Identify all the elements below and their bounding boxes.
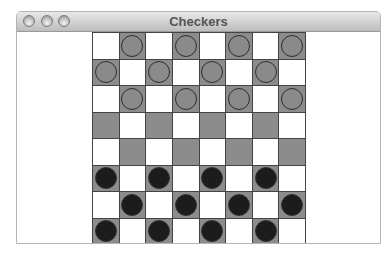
dark-checker-piece[interactable] [121,194,143,216]
board-square[interactable] [120,33,147,60]
light-checker-piece[interactable] [95,61,117,83]
board-square[interactable] [226,139,253,166]
dark-checker-piece[interactable] [175,194,197,216]
board-square[interactable] [173,139,200,166]
checkers-window: Checkers [16,11,381,244]
board-square[interactable] [120,139,147,166]
board-square[interactable] [226,192,253,219]
board-square[interactable] [93,192,120,219]
board-square[interactable] [146,166,173,193]
board-square[interactable] [279,60,306,87]
window-title: Checkers [17,14,380,29]
board-square[interactable] [146,113,173,140]
dark-checker-piece[interactable] [281,194,303,216]
light-checker-piece[interactable] [228,35,250,57]
dark-checker-piece[interactable] [148,167,170,189]
board-square[interactable] [120,86,147,113]
board-square[interactable] [200,166,227,193]
board-square[interactable] [93,86,120,113]
board-square[interactable] [253,192,280,219]
board-square[interactable] [93,60,120,87]
board-square[interactable] [279,139,306,166]
board-square[interactable] [173,166,200,193]
light-checker-piece[interactable] [255,61,277,83]
board-square[interactable] [146,219,173,245]
title-bar[interactable]: Checkers [17,12,380,32]
board-square[interactable] [93,33,120,60]
board-square[interactable] [253,86,280,113]
dark-checker-piece[interactable] [201,167,223,189]
board-square[interactable] [146,192,173,219]
light-checker-piece[interactable] [121,88,143,110]
board-square[interactable] [93,166,120,193]
board-square[interactable] [93,219,120,245]
board-square[interactable] [173,86,200,113]
board-square[interactable] [120,113,147,140]
board-square[interactable] [226,86,253,113]
board-square[interactable] [120,60,147,87]
light-checker-piece[interactable] [228,88,250,110]
dark-checker-piece[interactable] [228,194,250,216]
light-checker-piece[interactable] [175,88,197,110]
board-square[interactable] [200,60,227,87]
board-square[interactable] [253,166,280,193]
dark-checker-piece[interactable] [148,220,170,242]
board-square[interactable] [173,60,200,87]
light-checker-piece[interactable] [121,35,143,57]
window-content [17,32,380,243]
board-square[interactable] [279,219,306,245]
dark-checker-piece[interactable] [95,167,117,189]
board-square[interactable] [226,166,253,193]
board-square[interactable] [253,33,280,60]
dark-checker-piece[interactable] [95,220,117,242]
light-checker-piece[interactable] [201,61,223,83]
board-square[interactable] [226,219,253,245]
board-square[interactable] [173,219,200,245]
board-square[interactable] [226,60,253,87]
board-square[interactable] [253,139,280,166]
board-square[interactable] [279,166,306,193]
board-square[interactable] [200,113,227,140]
checkers-board[interactable] [92,32,306,244]
board-square[interactable] [253,219,280,245]
board-square[interactable] [226,113,253,140]
board-square[interactable] [173,33,200,60]
board-square[interactable] [253,60,280,87]
board-square[interactable] [93,113,120,140]
board-square[interactable] [279,192,306,219]
board-square[interactable] [200,139,227,166]
light-checker-piece[interactable] [175,35,197,57]
board-square[interactable] [279,113,306,140]
board-square[interactable] [120,192,147,219]
board-square[interactable] [200,33,227,60]
board-square[interactable] [146,86,173,113]
board-square[interactable] [93,139,120,166]
board-square[interactable] [200,219,227,245]
light-checker-piece[interactable] [281,35,303,57]
board-square[interactable] [253,113,280,140]
board-square[interactable] [146,139,173,166]
light-checker-piece[interactable] [281,88,303,110]
board-square[interactable] [146,60,173,87]
dark-checker-piece[interactable] [255,220,277,242]
board-square[interactable] [120,219,147,245]
dark-checker-piece[interactable] [255,167,277,189]
board-square[interactable] [120,166,147,193]
board-square[interactable] [146,33,173,60]
board-square[interactable] [173,113,200,140]
dark-checker-piece[interactable] [201,220,223,242]
board-square[interactable] [279,33,306,60]
light-checker-piece[interactable] [148,61,170,83]
board-square[interactable] [226,33,253,60]
board-square[interactable] [200,86,227,113]
board-square[interactable] [200,192,227,219]
board-square[interactable] [173,192,200,219]
board-square[interactable] [279,86,306,113]
